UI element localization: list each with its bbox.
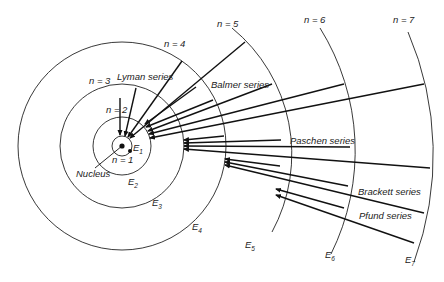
svg-text:E5: E5 [245,239,255,252]
label-n6: n = 6 [304,14,326,25]
label-n4: n = 4 [164,38,185,49]
label-n3: n = 3 [89,75,111,86]
label-brackett-series: Brackett series [358,186,421,197]
label-n1: n = 1 [112,154,133,165]
orbit-n5 [232,28,292,232]
svg-text:E7: E7 [405,254,415,267]
label-n5: n = 5 [217,18,239,29]
bohr-model-diagram: n = 4 n = 3 n = 2 n = 1 n = 5 n = 6 n = … [0,0,444,282]
electron-dot [128,149,132,153]
label-lyman-series: Lyman series [117,71,174,82]
energy-labels: E1 E2 E3 E4 E5 E6 E7 [128,142,415,267]
svg-text:E4: E4 [192,221,202,234]
svg-text:E6: E6 [325,249,335,262]
balmer-transitions [145,84,424,138]
label-pfund-series: Pfund series [359,210,412,221]
label-nucleus: Nucleus [76,168,111,179]
svg-text:E3: E3 [152,197,162,210]
orbit-n7 [408,32,433,262]
label-paschen-series: Paschen series [290,135,355,146]
label-n2: n = 2 [106,104,128,115]
label-balmer-series: Balmer series [211,79,269,90]
svg-text:E1: E1 [133,142,143,155]
label-n7: n = 7 [393,14,415,25]
svg-text:E2: E2 [128,176,138,189]
